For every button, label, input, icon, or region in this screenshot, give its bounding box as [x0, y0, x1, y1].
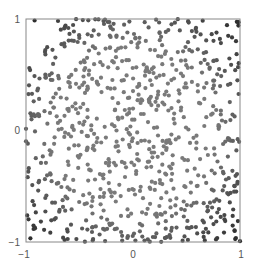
data-point [224, 177, 228, 181]
data-point [120, 59, 124, 63]
data-point [136, 141, 140, 145]
data-point [86, 32, 90, 36]
data-point [146, 120, 150, 124]
data-point [65, 196, 69, 200]
data-point [172, 112, 176, 116]
data-point [92, 132, 96, 136]
data-point [58, 119, 62, 123]
data-point [194, 26, 198, 30]
data-point [228, 200, 232, 204]
data-point [72, 128, 76, 132]
data-point [206, 62, 210, 66]
data-point [205, 209, 209, 213]
data-point [230, 169, 234, 173]
data-point [131, 66, 135, 70]
data-point [51, 105, 55, 109]
data-point [204, 81, 208, 85]
data-point [133, 192, 137, 196]
data-point [134, 169, 138, 173]
data-point [231, 207, 235, 211]
data-point [72, 29, 76, 33]
scatter-points [24, 17, 242, 244]
data-point [104, 47, 108, 51]
data-point [146, 207, 150, 211]
data-point [82, 119, 86, 123]
data-point [49, 100, 53, 104]
data-point [193, 35, 197, 39]
data-point [190, 29, 194, 33]
data-point [54, 92, 58, 96]
data-point [210, 205, 214, 209]
data-point [155, 96, 159, 100]
data-point [106, 86, 110, 90]
data-point [231, 214, 235, 218]
data-point [48, 171, 52, 175]
data-point [154, 108, 158, 112]
x-tick-label-mid: 0 [130, 249, 136, 260]
data-point [143, 20, 147, 24]
data-point [146, 237, 150, 241]
data-point [99, 216, 103, 220]
data-point [196, 47, 200, 51]
data-point [215, 72, 219, 76]
data-point [50, 201, 54, 205]
data-point [139, 139, 143, 143]
data-point [173, 203, 177, 207]
data-point [131, 107, 135, 111]
data-point [204, 181, 208, 185]
data-point [110, 194, 114, 198]
data-point [138, 229, 142, 233]
data-point [222, 231, 226, 235]
data-point [67, 109, 71, 113]
data-point [234, 174, 238, 178]
data-point [78, 105, 82, 109]
data-point [43, 48, 47, 52]
data-point [149, 103, 153, 107]
data-point [111, 27, 115, 31]
data-point [135, 152, 139, 156]
data-point [85, 84, 89, 88]
data-point [194, 30, 198, 34]
data-point [44, 161, 48, 165]
data-point [168, 205, 172, 209]
data-point [176, 50, 180, 54]
data-point [87, 192, 91, 196]
data-point [160, 43, 164, 47]
data-point [163, 93, 167, 97]
data-point [204, 38, 208, 42]
data-point [150, 155, 154, 159]
data-point [113, 191, 117, 195]
data-point [187, 226, 191, 230]
data-point [36, 86, 40, 90]
data-point [222, 213, 226, 217]
data-point [171, 187, 175, 191]
y-tick-label-top: 1 [14, 14, 20, 25]
data-point [223, 69, 227, 73]
data-point [164, 190, 168, 194]
data-point [204, 146, 208, 150]
data-point [32, 112, 36, 116]
data-point [124, 165, 128, 169]
data-point [59, 185, 63, 189]
data-point [228, 191, 232, 195]
data-point [144, 39, 148, 43]
data-point [91, 143, 95, 147]
data-point [106, 65, 110, 69]
data-point [185, 85, 189, 89]
scatter-chart: 1 0 −1 −1 0 1 [0, 0, 255, 271]
data-point [177, 135, 181, 139]
data-point [189, 181, 193, 185]
data-point [167, 93, 171, 97]
data-point [219, 109, 223, 113]
data-point [101, 227, 105, 231]
data-point [145, 65, 149, 69]
data-point [108, 24, 112, 28]
data-point [162, 73, 166, 77]
data-point [167, 138, 171, 142]
data-point [156, 221, 160, 225]
data-point [92, 62, 96, 66]
data-point [154, 76, 158, 80]
data-point [214, 197, 218, 201]
data-point [233, 237, 237, 241]
data-point [155, 125, 159, 129]
